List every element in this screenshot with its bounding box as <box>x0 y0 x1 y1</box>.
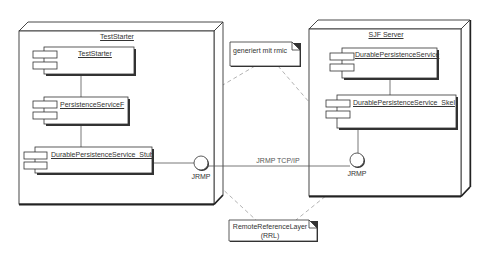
component-label-stub: DurablePersistenceService_Stub <box>51 151 154 159</box>
component-label-persistenceservicef: PersistenceServiceF <box>60 101 124 109</box>
note-rrl-line2: (RRL) <box>261 232 280 240</box>
note-rmic-text: generiert mit rmic <box>233 47 287 55</box>
connection-label: JRMP TCP/IP <box>256 157 299 165</box>
component-label-skel: DurablePersistenceService_Skel <box>353 99 455 107</box>
interface-label-jrmp-right: JRMP <box>347 170 366 178</box>
component-label-durablepersistenceservice: DurablePersistenceService <box>355 51 439 59</box>
note-rrl-line1: RemoteReferenceLayer <box>233 223 307 231</box>
node-label-teststarter: TestStarter <box>100 33 134 41</box>
deployment-diagram <box>0 0 490 256</box>
interface-label-jrmp-left: JRMP <box>191 173 210 181</box>
node-label-sjf-server: SJF Server <box>368 31 403 39</box>
component-label-teststarter: TestStarter <box>78 50 112 58</box>
